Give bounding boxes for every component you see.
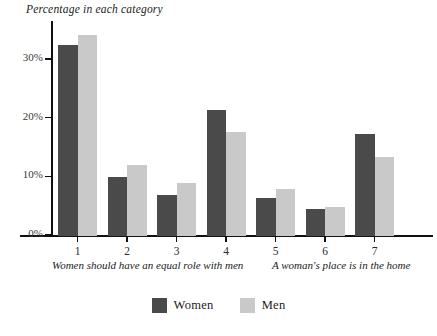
- bar-men-1: [78, 35, 98, 236]
- y-axis-tick-label: 30%: [1, 51, 43, 63]
- legend-label-women: Women: [174, 298, 214, 313]
- bar-men-3: [177, 183, 197, 236]
- x-axis-tick-label: 4: [214, 245, 238, 257]
- bar-women-6: [306, 209, 326, 236]
- scale-anchor-right: A woman's place is in the home: [272, 259, 410, 271]
- x-axis-tick-label: 5: [264, 245, 288, 257]
- legend-item-women: Women: [152, 298, 214, 313]
- scale-anchor-left: Women should have an equal role with men: [52, 259, 243, 271]
- bar-group: [306, 22, 352, 236]
- bar-group: [207, 22, 253, 236]
- y-axis-tick-label: 0%: [1, 227, 43, 239]
- x-axis-tick-label: 3: [165, 245, 189, 257]
- bar-men-2: [127, 165, 147, 236]
- bar-women-4: [207, 110, 227, 236]
- plot-area: [51, 22, 433, 236]
- bar-women-3: [157, 195, 177, 236]
- chart-title: Percentage in each category: [26, 3, 163, 15]
- bar-women-5: [256, 198, 276, 236]
- chart-legend: WomenMen: [0, 298, 437, 313]
- bar-chart: Percentage in each category 0%10%20%30% …: [0, 0, 437, 336]
- x-axis-tick-label: 7: [363, 245, 387, 257]
- bar-group: [256, 22, 302, 236]
- legend-swatch-women: [152, 298, 167, 313]
- y-axis-labels: 0%10%20%30%: [0, 0, 43, 336]
- x-axis-tick: [275, 236, 277, 242]
- x-axis-tick: [126, 236, 128, 242]
- x-axis-tick: [324, 236, 326, 242]
- x-axis-tick: [225, 236, 227, 242]
- bar-women-1: [58, 45, 78, 236]
- y-axis-tick-label: 20%: [1, 110, 43, 122]
- x-axis-tick: [77, 236, 79, 242]
- bar-men-7: [375, 157, 395, 236]
- bar-men-5: [276, 189, 296, 236]
- bar-group: [108, 22, 154, 236]
- bar-men-4: [226, 132, 246, 236]
- legend-label-men: Men: [262, 298, 286, 313]
- legend-item-men: Men: [240, 298, 286, 313]
- x-axis-tick: [374, 236, 376, 242]
- y-axis-tick-label: 10%: [1, 168, 43, 180]
- x-axis-tick-label: 1: [66, 245, 90, 257]
- legend-swatch-men: [240, 298, 255, 313]
- bar-group: [157, 22, 203, 236]
- bar-group: [355, 22, 401, 236]
- x-axis-tick-label: 6: [313, 245, 337, 257]
- bar-men-6: [325, 207, 345, 236]
- x-axis-tick-label: 2: [115, 245, 139, 257]
- bar-group: [58, 22, 104, 236]
- x-axis-tick: [176, 236, 178, 242]
- bar-women-2: [108, 177, 128, 236]
- bar-women-7: [355, 134, 375, 236]
